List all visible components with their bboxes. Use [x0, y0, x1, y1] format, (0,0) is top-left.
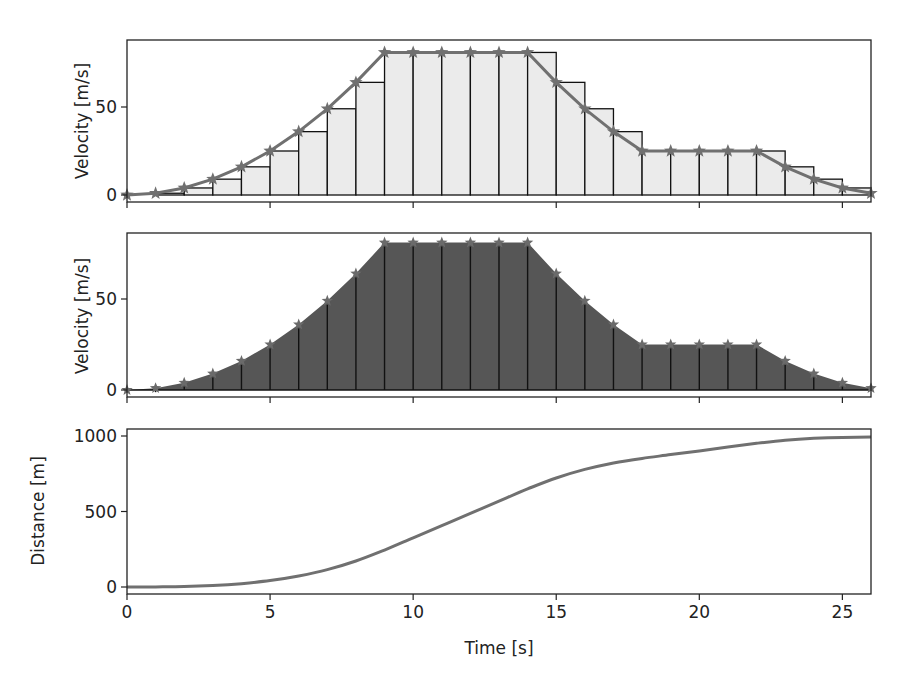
- riemann-bar: [728, 151, 757, 195]
- middle-ylabel: Velocity [m/s]: [72, 258, 92, 375]
- y-tick-label: 500: [85, 502, 117, 522]
- riemann-bar: [699, 151, 728, 195]
- riemann-bar: [299, 132, 328, 195]
- top-ylabel: Velocity [m/s]: [72, 63, 92, 180]
- y-tick-label: 0: [106, 577, 117, 597]
- y-tick-label: 0: [106, 380, 117, 400]
- x-tick-label: 5: [265, 602, 276, 622]
- riemann-bar: [470, 52, 499, 195]
- riemann-bar: [213, 179, 242, 195]
- riemann-bar: [327, 109, 356, 195]
- x-tick-label: 25: [832, 602, 854, 622]
- distance-line: [127, 437, 871, 587]
- riemann-bar: [785, 167, 814, 195]
- riemann-bar: [184, 188, 213, 195]
- x-tick-label: 20: [688, 602, 710, 622]
- axes-frame: [127, 429, 871, 594]
- riemann-bar: [270, 151, 299, 195]
- y-tick-label: 50: [95, 289, 117, 309]
- x-tick-label: 15: [545, 602, 567, 622]
- y-tick-label: 0: [106, 185, 117, 205]
- riemann-bar: [385, 52, 414, 195]
- riemann-bar: [442, 52, 471, 195]
- distance-panel: 050010000510152025: [74, 426, 871, 622]
- riemann-bar: [356, 82, 385, 195]
- riemann-bar: [528, 52, 557, 195]
- riemann-bar: [642, 151, 671, 195]
- riemann-bar: [556, 82, 585, 195]
- star-marker: [149, 186, 162, 199]
- velocity-area-panel: 050: [95, 233, 876, 403]
- riemann-bar: [413, 52, 442, 195]
- riemann-bar: [671, 151, 700, 195]
- figure: 050 050 050010000510152025 Velocity [m/s…: [0, 0, 914, 689]
- bottom-ylabel: Distance [m]: [28, 456, 48, 566]
- y-tick-label: 1000: [74, 426, 117, 446]
- x-axis-label: Time [s]: [463, 638, 533, 658]
- x-tick-label: 10: [402, 602, 424, 622]
- velocity-bars-panel: 050: [95, 40, 877, 208]
- riemann-bar: [499, 52, 528, 195]
- x-tick-label: 0: [122, 602, 133, 622]
- y-tick-label: 50: [95, 97, 117, 117]
- riemann-bar: [241, 167, 270, 195]
